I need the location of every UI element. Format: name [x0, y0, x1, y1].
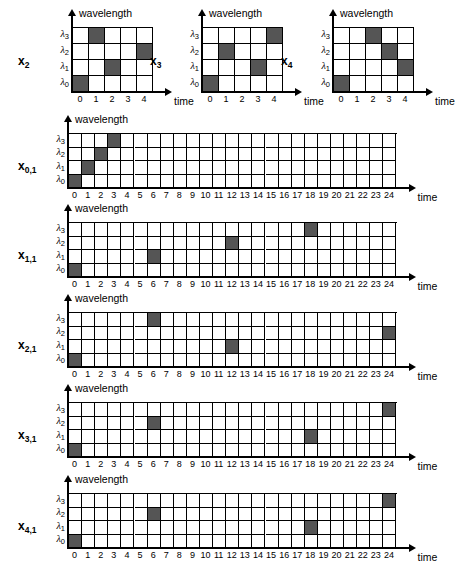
grid-cell-empty [357, 264, 370, 278]
y-tick-label: λ0 [190, 77, 199, 89]
panel-plot-x4,1: wavelengthtimeλ3λ2λ1λ0012345678910111213… [68, 493, 396, 547]
y-tick-label: λ3 [321, 29, 330, 41]
y-tick-labels: λ3λ2λ1λ0 [43, 493, 65, 547]
grid-cell-empty [200, 237, 213, 251]
lambda-subscript: 3 [61, 316, 65, 325]
grid-cell-empty [105, 28, 121, 44]
grid-cell-empty [357, 161, 370, 175]
x-axis-title: time [435, 96, 455, 107]
y-axis-title: wavelength [209, 8, 262, 19]
grid-cell-empty [95, 250, 108, 264]
grid-cell-empty [174, 430, 187, 444]
grid-cell-filled [203, 76, 219, 92]
y-tick-label: λ3 [56, 134, 65, 146]
grid-cell-empty [239, 521, 252, 535]
grid-cell-empty [161, 508, 174, 522]
grid-cell-empty [305, 444, 318, 458]
grid-cell-empty [135, 535, 148, 549]
grid-cell-empty [266, 175, 279, 189]
grid-cell-empty [174, 340, 187, 354]
y-tick-label: λ0 [60, 77, 69, 89]
grid-cell-empty [213, 340, 226, 354]
grid-cell-empty [121, 508, 134, 522]
y-axis-title: wavelength [79, 8, 132, 19]
x-tick-label: 24 [378, 460, 399, 469]
grid-cell-empty [148, 148, 161, 162]
grid-cell-empty [279, 313, 292, 327]
grid [72, 27, 153, 92]
grid-cell-empty [370, 237, 383, 251]
grid-cell-empty [344, 494, 357, 508]
grid-cell-empty [383, 521, 396, 535]
grid [68, 493, 397, 548]
grid-cell-empty [200, 264, 213, 278]
grid-cell-empty [305, 148, 318, 162]
grid-cell-empty [95, 313, 108, 327]
grid-cell-empty [331, 403, 344, 417]
grid-cell-empty [213, 521, 226, 535]
grid-cell-empty [279, 237, 292, 251]
grid-cell-empty [305, 313, 318, 327]
grid-cell-empty [213, 161, 226, 175]
lambda-subscript: 2 [195, 48, 199, 57]
grid-cell-empty [108, 354, 121, 368]
grid-cell-empty [121, 313, 134, 327]
lambda-subscript: 2 [61, 419, 65, 428]
grid-cell-empty [357, 223, 370, 237]
grid-cell-empty [161, 403, 174, 417]
grid-cell-empty [148, 161, 161, 175]
grid-cell-empty [305, 327, 318, 341]
y-tick-labels: λ3λ2λ1λ0 [43, 402, 65, 456]
grid-cell-empty [135, 264, 148, 278]
grid-cell-empty [174, 264, 187, 278]
grid-cell-empty [350, 28, 366, 44]
grid-cell-empty [318, 494, 331, 508]
grid-cell-empty [82, 237, 95, 251]
grid-cell-empty [382, 76, 398, 92]
grid-cell-filled [69, 354, 82, 368]
grid-cell-empty [121, 417, 134, 431]
grid-cell-empty [213, 134, 226, 148]
panel-plot-x1,1: wavelengthtimeλ3λ2λ1λ0012345678910111213… [68, 222, 396, 276]
grid-cell-empty [357, 494, 370, 508]
grid-cell-empty [95, 403, 108, 417]
grid-cell-empty [239, 237, 252, 251]
grid-cell-empty [318, 444, 331, 458]
grid-cell-empty [226, 354, 239, 368]
grid-cell-empty [318, 264, 331, 278]
grid-cell-empty [108, 494, 121, 508]
grid-cell-empty [226, 430, 239, 444]
grid-cell-empty [318, 508, 331, 522]
grid-cell-empty [279, 175, 292, 189]
grid-cell-empty [370, 444, 383, 458]
panel-label-base: x [150, 54, 157, 68]
y-tick-label: λ2 [60, 45, 69, 57]
grid-cell-empty [121, 327, 134, 341]
grid-cell-empty [69, 161, 82, 175]
grid-cell-empty [137, 76, 153, 92]
grid-cell-empty [292, 417, 305, 431]
grid-cell-empty [121, 161, 134, 175]
grid-cell-empty [370, 134, 383, 148]
lambda-subscript: 3 [61, 226, 65, 235]
grid-cell-empty [266, 494, 279, 508]
grid-cell-empty [344, 223, 357, 237]
grid-cell-empty [213, 264, 226, 278]
grid-cell-empty [292, 430, 305, 444]
grid-cell-filled [148, 250, 161, 264]
panel-plot-x2: wavelengthtimeλ3λ2λ1λ001234 [72, 27, 152, 91]
grid-cell-empty [305, 354, 318, 368]
grid [333, 27, 414, 92]
grid-cell-empty [121, 28, 137, 44]
grid-cell-empty [135, 250, 148, 264]
panel-label-x2: x2 [18, 55, 29, 70]
y-axis-title: wavelength [75, 474, 128, 485]
lambda-subscript: 2 [61, 329, 65, 338]
grid-cell-empty [213, 148, 226, 162]
grid-cell-empty [187, 494, 200, 508]
lambda-subscript: 0 [61, 446, 65, 455]
grid-cell-empty [331, 175, 344, 189]
grid-cell-empty [161, 430, 174, 444]
grid-cell-filled [226, 340, 239, 354]
grid-cell-empty [187, 175, 200, 189]
